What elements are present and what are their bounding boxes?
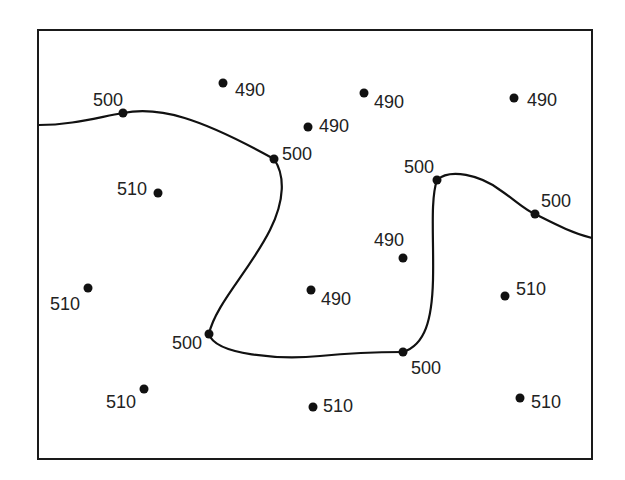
point-marker-icon [154, 189, 163, 198]
elevation-point: 500 [172, 330, 214, 354]
point-marker-icon [205, 330, 214, 339]
elevation-point: 500 [399, 348, 442, 379]
point-marker-icon [510, 94, 519, 103]
point-marker-icon [516, 394, 525, 403]
elevation-point: 490 [304, 116, 350, 136]
elevation-point: 490 [510, 90, 558, 110]
elevation-point: 510 [117, 179, 163, 199]
point-value-label: 510 [323, 396, 353, 416]
point-value-label: 510 [50, 294, 80, 314]
elevation-point: 510 [106, 385, 149, 413]
point-marker-icon [270, 155, 279, 164]
elevation-point: 510 [309, 396, 354, 416]
point-value-label: 500 [282, 144, 312, 164]
elevation-point: 510 [516, 392, 562, 412]
elevation-point: 510 [50, 284, 93, 315]
point-marker-icon [219, 79, 228, 88]
elevation-point: 500 [270, 144, 313, 164]
point-value-label: 500 [93, 90, 123, 110]
point-value-label: 490 [374, 230, 404, 250]
point-marker-icon [399, 348, 408, 357]
elevation-point: 490 [374, 230, 408, 263]
elevation-point: 490 [360, 89, 405, 113]
elevation-point: 500 [531, 191, 572, 219]
point-value-label: 500 [404, 157, 434, 177]
elevation-points: 4904904904905005005005005104905104905105… [50, 79, 571, 417]
point-value-label: 510 [106, 392, 136, 412]
point-value-label: 490 [235, 80, 265, 100]
point-value-label: 490 [319, 116, 349, 136]
point-value-label: 500 [411, 358, 441, 378]
point-value-label: 500 [172, 333, 202, 353]
point-marker-icon [304, 123, 313, 132]
point-marker-icon [84, 284, 93, 293]
point-marker-icon [309, 403, 318, 412]
isoline-diagram: 4904904904905005005005005104905104905105… [0, 0, 625, 480]
point-marker-icon [140, 385, 149, 394]
elevation-point: 500 [93, 90, 128, 118]
contour-line-500-left [39, 111, 403, 357]
point-value-label: 490 [527, 90, 557, 110]
point-marker-icon [307, 286, 316, 295]
elevation-point: 490 [307, 286, 352, 310]
point-value-label: 490 [321, 289, 351, 309]
elevation-point: 500 [404, 157, 442, 185]
point-value-label: 490 [374, 92, 404, 112]
point-value-label: 510 [531, 392, 561, 412]
point-marker-icon [360, 89, 369, 98]
point-marker-icon [531, 210, 540, 219]
point-value-label: 510 [117, 179, 147, 199]
point-value-label: 500 [541, 191, 571, 211]
point-value-label: 510 [516, 279, 546, 299]
point-marker-icon [501, 292, 510, 301]
elevation-point: 490 [219, 79, 266, 101]
point-marker-icon [399, 254, 408, 263]
elevation-point: 510 [501, 279, 547, 301]
